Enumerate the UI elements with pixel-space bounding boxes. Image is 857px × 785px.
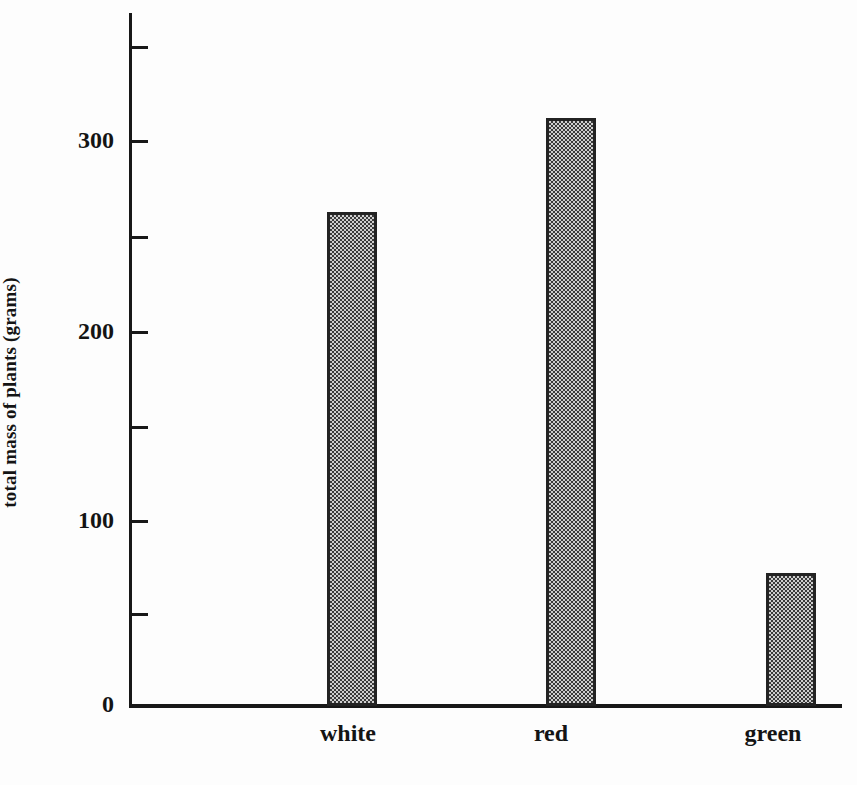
x-tick-label-white: white bbox=[320, 720, 376, 746]
y-tick-label-300: 300 bbox=[20, 128, 114, 152]
x-axis-line bbox=[129, 704, 842, 708]
bar-white bbox=[327, 212, 377, 706]
y-tick-label-100-wrap: 100 bbox=[20, 508, 114, 534]
y-tick-label-0-wrap: 0 bbox=[20, 692, 114, 718]
y-tick-minor-150 bbox=[132, 426, 148, 429]
x-tick-label-red: red bbox=[534, 720, 568, 746]
y-tick-label-300-wrap: 300 bbox=[20, 128, 114, 154]
y-tick-minor-50 bbox=[132, 613, 148, 616]
y-tick-minor-250 bbox=[132, 236, 148, 239]
y-axis-line bbox=[129, 13, 132, 708]
y-tick-major-100 bbox=[132, 520, 148, 523]
y-tick-major-200 bbox=[132, 331, 148, 334]
y-tick-label-200-wrap: 200 bbox=[20, 319, 114, 345]
bar-red bbox=[546, 118, 596, 706]
bar-chart: total mass of plants (grams) 300 200 100… bbox=[0, 0, 857, 785]
bar-green bbox=[766, 573, 816, 706]
y-axis-title: total mass of plants (grams) bbox=[0, 0, 42, 785]
y-tick-label-100: 100 bbox=[20, 508, 114, 532]
y-tick-label-200: 200 bbox=[20, 319, 114, 343]
y-tick-major-300 bbox=[132, 140, 148, 143]
y-tick-label-0: 0 bbox=[20, 692, 114, 716]
y-tick-minor-350 bbox=[132, 46, 148, 49]
x-tick-label-green: green bbox=[745, 720, 802, 746]
